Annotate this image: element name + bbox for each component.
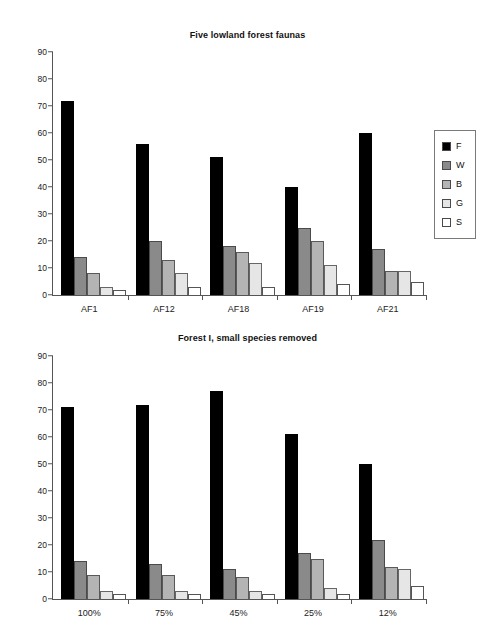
bar-25pct-S: [337, 594, 350, 599]
y-axis-tick-label: 90: [23, 48, 47, 57]
bar-group: [285, 52, 352, 295]
bar-AF12-W: [149, 241, 162, 295]
bar-25pct-F: [285, 434, 298, 599]
x-axis-tick-mark: [277, 295, 278, 300]
x-axis-tick-mark: [426, 295, 427, 300]
y-axis-tick-mark: [48, 214, 53, 215]
bar-45pct-S: [262, 594, 275, 599]
bar-group: [210, 356, 277, 599]
y-axis-tick-label: 60: [23, 433, 47, 442]
bar-AF1-B: [87, 273, 100, 295]
bar-group: [359, 52, 426, 295]
y-axis-tick-label: 60: [23, 129, 47, 138]
y-axis-tick-mark: [48, 545, 53, 546]
bar-12pct-B: [385, 567, 398, 599]
bar-AF18-G: [249, 263, 262, 295]
bar-12pct-F: [359, 464, 372, 599]
legend-row-G: G: [442, 194, 468, 213]
y-axis-tick-mark: [48, 52, 53, 53]
y-axis-tick-label: 30: [23, 514, 47, 523]
legend-row-W: W: [442, 156, 468, 175]
y-axis-tick-label: 0: [23, 291, 47, 300]
bar-AF21-G: [398, 271, 411, 295]
bar-45pct-F: [210, 391, 223, 599]
y-axis-tick-label: 90: [23, 352, 47, 361]
x-axis-label-AF18: AF18: [228, 304, 250, 314]
y-axis-tick-mark: [48, 241, 53, 242]
bar-AF19-F: [285, 187, 298, 295]
x-axis-tick-mark: [128, 599, 129, 604]
x-axis-tick-mark: [202, 295, 203, 300]
x-axis-label-25pct: 25%: [304, 608, 322, 618]
bar-AF21-W: [372, 249, 385, 295]
bar-group: [61, 52, 128, 295]
bar-AF18-F: [210, 157, 223, 295]
bar-75pct-W: [149, 564, 162, 599]
y-axis-tick-label: 10: [23, 264, 47, 273]
bar-75pct-B: [162, 575, 175, 599]
bar-group: [136, 52, 203, 295]
y-axis-tick-label: 10: [23, 568, 47, 577]
bar-group: [136, 356, 203, 599]
bar-AF18-B: [236, 252, 249, 295]
plot-area-bottom: 0102030405060708090: [52, 356, 426, 600]
y-axis-tick-mark: [48, 464, 53, 465]
legend-label-F: F: [456, 142, 462, 151]
bar-AF18-W: [223, 246, 236, 295]
bar-group: [61, 356, 128, 599]
y-axis-tick-mark: [48, 383, 53, 384]
y-axis-tick-mark: [48, 268, 53, 269]
bar-AF19-B: [311, 241, 324, 295]
bar-45pct-G: [249, 591, 262, 599]
y-axis-tick-label: 70: [23, 406, 47, 415]
y-axis-tick-label: 70: [23, 102, 47, 111]
x-axis-tick-mark: [351, 295, 352, 300]
bar-AF19-G: [324, 265, 337, 295]
legend-swatch-icon-B: [442, 180, 451, 189]
y-axis-tick-label: 20: [23, 541, 47, 550]
x-axis-label-75pct: 75%: [155, 608, 173, 618]
legend-label-B: B: [456, 180, 462, 189]
x-axis-label-AF21: AF21: [377, 304, 399, 314]
bar-100pct-B: [87, 575, 100, 599]
y-axis-tick-label: 50: [23, 156, 47, 165]
y-axis-tick-mark: [48, 518, 53, 519]
y-axis-tick-mark: [48, 106, 53, 107]
chart-title-top: Five lowland forest faunas: [0, 30, 495, 40]
bar-100pct-F: [61, 407, 74, 599]
bar-75pct-S: [188, 594, 201, 599]
bar-45pct-B: [236, 577, 249, 599]
legend-top: FWBGS: [434, 130, 476, 239]
y-axis-tick-mark: [48, 133, 53, 134]
x-axis-label-12pct: 12%: [379, 608, 397, 618]
bar-25pct-G: [324, 588, 337, 599]
bar-group: [285, 356, 352, 599]
x-axis-tick-mark: [128, 295, 129, 300]
legend-swatch-icon-S: [442, 218, 451, 227]
y-axis-tick-mark: [48, 79, 53, 80]
bar-AF1-F: [61, 101, 74, 295]
bar-AF21-S: [411, 282, 424, 296]
x-axis-tick-mark: [202, 599, 203, 604]
bar-group: [210, 52, 277, 295]
legend-label-S: S: [456, 218, 462, 227]
bar-25pct-W: [298, 553, 311, 599]
y-axis-tick-label: 40: [23, 183, 47, 192]
y-axis-tick-label: 0: [23, 595, 47, 604]
bar-AF21-B: [385, 271, 398, 295]
bar-75pct-G: [175, 591, 188, 599]
x-axis-tick-mark: [426, 599, 427, 604]
y-axis-tick-mark: [48, 160, 53, 161]
bar-25pct-B: [311, 559, 324, 600]
bar-100pct-S: [113, 594, 126, 599]
bar-12pct-S: [411, 586, 424, 600]
x-axis-tick-mark: [277, 599, 278, 604]
bar-AF1-W: [74, 257, 87, 295]
bar-group: [359, 356, 426, 599]
bar-AF12-F: [136, 144, 149, 295]
y-axis-tick-label: 40: [23, 487, 47, 496]
chart-title-bottom: Forest I, small species removed: [0, 333, 495, 343]
legend-label-W: W: [456, 161, 465, 170]
legend-swatch-icon-G: [442, 199, 451, 208]
bar-12pct-W: [372, 540, 385, 599]
